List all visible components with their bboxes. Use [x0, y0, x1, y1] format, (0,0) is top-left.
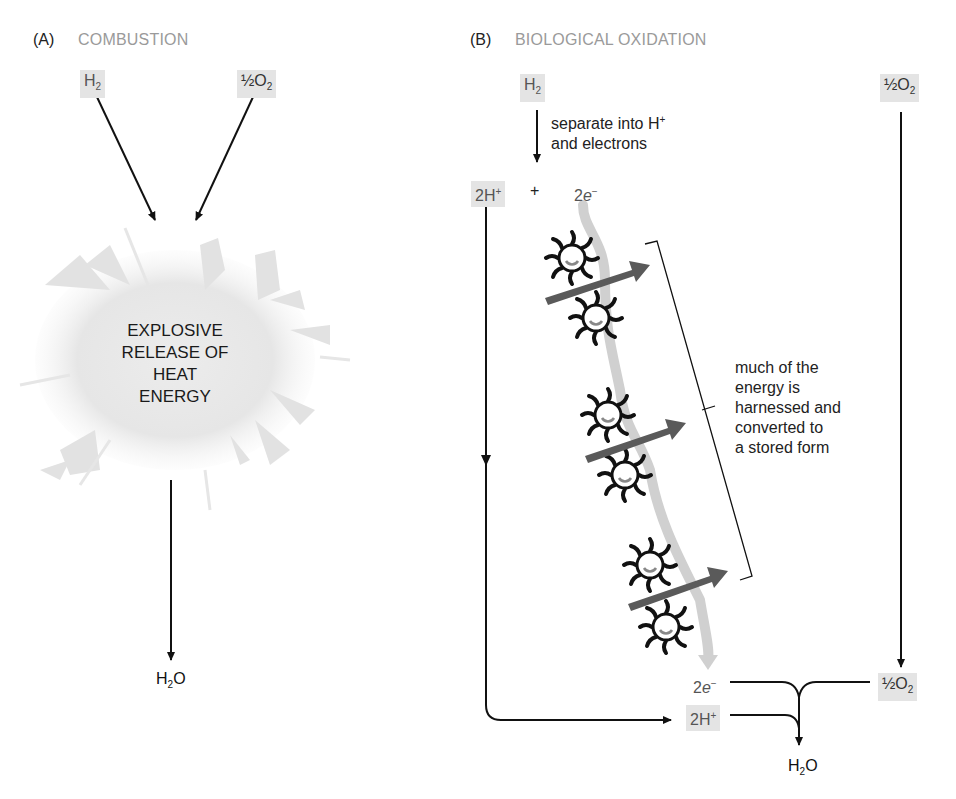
- oxygen-merge-line: [799, 682, 870, 697]
- bio-protons-top: 2H+: [471, 181, 505, 207]
- o2-symbol: ½O: [882, 675, 908, 692]
- bio-protons-bottom: 2H+: [686, 705, 720, 731]
- o2-subscript: 2: [910, 85, 916, 96]
- carrier-gear-icon: [640, 601, 692, 653]
- panel-b-label: (B): [470, 31, 491, 49]
- proton-merge-line: [730, 715, 799, 728]
- separate-note: separate into H+ and electrons: [551, 110, 665, 154]
- combustion-o2-reactant: ½O2: [237, 70, 276, 98]
- electrons-e: e: [702, 679, 711, 696]
- carrier-gear-icon: [546, 232, 598, 284]
- energy-note-line: harnessed and: [735, 398, 841, 418]
- explosion-line: RELEASE OF: [105, 342, 245, 364]
- h2-subscript: 2: [536, 85, 542, 96]
- electron-merge-line: [730, 682, 799, 697]
- carrier-gear-icon: [570, 292, 622, 344]
- h2-subscript: 2: [96, 81, 102, 92]
- electrons-sup: −: [592, 186, 598, 197]
- o2-to-explosion-arrow: [196, 97, 253, 220]
- combustion-water-product: H2O: [152, 668, 190, 696]
- protons-symbol: 2H: [690, 711, 710, 728]
- electrons-sup: −: [711, 678, 717, 689]
- carrier-gear-icon: [624, 539, 676, 591]
- combustion-h2-reactant: H2: [80, 70, 105, 98]
- energy-note-line: converted to: [735, 418, 841, 438]
- water-h: H: [788, 757, 800, 774]
- water-o: O: [173, 670, 185, 687]
- energy-note-line: much of the: [735, 358, 841, 378]
- bio-electrons-bottom: 2e−: [689, 673, 721, 699]
- water-o: O: [805, 757, 817, 774]
- o2-symbol: ½O: [884, 76, 910, 93]
- panel-b-title: BIOLOGICAL OXIDATION: [515, 31, 707, 49]
- explosion-line: HEAT: [105, 364, 245, 386]
- h2-symbol: H: [524, 76, 536, 93]
- bio-h2-reactant: H2: [520, 74, 545, 102]
- separate-sup: +: [660, 114, 666, 125]
- panel-a-label: (A): [33, 31, 54, 49]
- separate-line-1: separate into H: [551, 115, 660, 132]
- bio-water-product: H2O: [784, 755, 822, 783]
- panel-a-title: COMBUSTION: [78, 31, 188, 49]
- explosion-line: ENERGY: [105, 386, 245, 408]
- protons-sup: +: [495, 186, 501, 197]
- electrons-num: 2: [574, 187, 583, 204]
- bio-electrons-top: 2e−: [570, 181, 602, 207]
- electrons-e: e: [583, 187, 592, 204]
- bio-o2-top: ½O2: [880, 74, 919, 102]
- electrons-num: 2: [693, 679, 702, 696]
- water-h: H: [156, 670, 168, 687]
- h2-to-explosion-arrow: [97, 97, 155, 220]
- energy-note-line: energy is: [735, 378, 841, 398]
- carrier-gear-icon: [582, 389, 634, 441]
- explosion-label: EXPLOSIVE RELEASE OF HEAT ENERGY: [105, 320, 245, 408]
- o2-subscript: 2: [908, 684, 914, 695]
- energy-note-line: a stored form: [735, 438, 841, 458]
- explosion-line: EXPLOSIVE: [105, 320, 245, 342]
- separate-line-2: and electrons: [551, 134, 665, 154]
- protons-symbol: 2H: [475, 187, 495, 204]
- bio-o2-bottom: ½O2: [878, 673, 917, 701]
- energy-harness-note: much of the energy is harnessed and conv…: [735, 358, 841, 458]
- plus-sign: +: [530, 181, 539, 201]
- electron-flow-ribbon: [583, 205, 708, 660]
- o2-symbol: ½O: [241, 72, 267, 89]
- protons-sup: +: [710, 710, 716, 721]
- h2-symbol: H: [84, 72, 96, 89]
- carrier-gear-icon: [599, 449, 651, 501]
- o2-subscript: 2: [267, 81, 273, 92]
